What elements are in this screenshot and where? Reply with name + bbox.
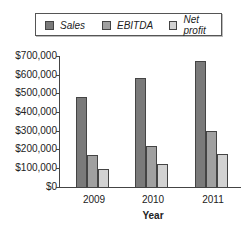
bar-net-profit-2011 — [217, 154, 228, 188]
x-tick-label: 2009 — [74, 194, 114, 205]
y-tick — [56, 112, 60, 113]
y-tick — [56, 131, 60, 132]
y-tick — [56, 149, 60, 150]
y-tick-label: $400,000 — [0, 107, 57, 117]
bar-net-profit-2009 — [98, 169, 109, 188]
bar-sales-2010 — [135, 78, 146, 188]
bar-sales-2009 — [76, 97, 87, 188]
y-tick-label: $300,000 — [0, 126, 57, 136]
bar-ebitda-2011 — [206, 131, 217, 188]
x-tick-label: 2010 — [133, 194, 173, 205]
y-tick-label: $0 — [0, 182, 57, 192]
y-tick-label: $500,000 — [0, 88, 57, 98]
y-tick-label: $100,000 — [0, 163, 57, 173]
y-tick — [56, 75, 60, 76]
y-tick — [56, 168, 60, 169]
bar-net-profit-2010 — [157, 164, 168, 188]
bar-ebitda-2009 — [87, 155, 98, 188]
bar-ebitda-2010 — [146, 146, 157, 188]
y-tick — [56, 187, 60, 188]
y-tick — [56, 93, 60, 94]
plot-area: $700,000 $600,000 $500,000 $400,000 $300… — [0, 0, 249, 230]
bar-sales-2011 — [195, 61, 206, 188]
y-tick-label: $700,000 — [0, 51, 57, 61]
y-tick-label: $200,000 — [0, 144, 57, 154]
x-axis-title: Year — [133, 210, 173, 221]
x-tick-label: 2011 — [193, 194, 233, 205]
y-tick — [56, 56, 60, 57]
y-tick-label: $600,000 — [0, 70, 57, 80]
